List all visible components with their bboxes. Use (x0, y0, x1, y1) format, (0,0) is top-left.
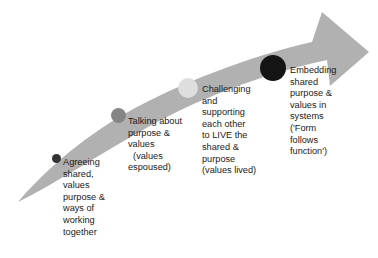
diagram-canvas: Agreeing shared, values purpose & ways o… (0, 0, 378, 258)
stage-marker-4 (260, 55, 286, 81)
stage-marker-3 (178, 78, 198, 98)
stage-marker-1 (52, 154, 61, 163)
stage-marker-2 (111, 108, 126, 123)
stage-label-4: Embedding shared purpose & values in sys… (290, 65, 336, 158)
stage-label-3: Challenging and supporting each other to… (202, 84, 256, 177)
stage-label-1: Agreeing shared, values purpose & ways o… (63, 157, 105, 238)
stage-label-2: Talking about purpose & values (values e… (128, 116, 182, 174)
